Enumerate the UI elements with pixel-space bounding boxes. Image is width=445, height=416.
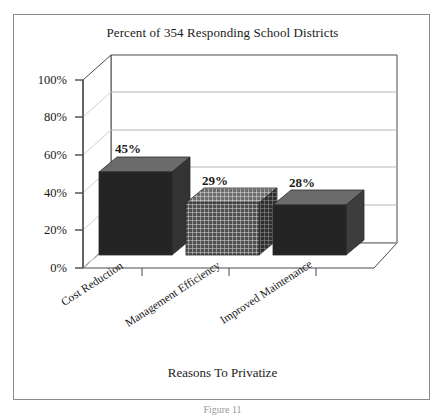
bar-management-efficiency[interactable] (186, 188, 277, 255)
value-label-improved-maintenance: 28% (289, 175, 315, 191)
y-tick-label-20: 20% (13, 224, 67, 236)
value-label-cost-reduction: 45% (115, 141, 141, 157)
chart-3d-bar: Percent of 354 Responding School Distric… (0, 0, 445, 416)
y-tick-label-0: 0% (13, 262, 67, 274)
bar-cost-reduction[interactable] (99, 157, 190, 255)
chart-title: Percent of 354 Responding School Distric… (0, 25, 445, 41)
y-tick-label-40: 40% (13, 187, 67, 199)
y-tick-label-60: 60% (13, 149, 67, 161)
value-label-management-efficiency: 29% (202, 173, 228, 189)
bar-improved-maintenance[interactable] (273, 190, 364, 255)
chart-canvas (0, 0, 445, 416)
y-tick-label-100: 100% (13, 74, 67, 86)
y-tick-label-80: 80% (13, 111, 67, 123)
x-axis-title: Reasons To Privatize (0, 365, 445, 381)
figure-caption: Figure 11 (0, 404, 445, 415)
y-axis (75, 80, 83, 268)
